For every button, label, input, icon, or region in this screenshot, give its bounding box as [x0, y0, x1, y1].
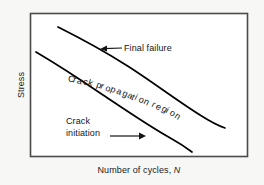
crack-initiation-line-1: Crack — [66, 116, 100, 128]
final-failure-label: Final failure — [124, 43, 172, 53]
y-axis-label: Stress — [16, 55, 26, 115]
x-axis-label: Number of cycles, N — [30, 165, 248, 175]
x-axis-label-symbol: N — [174, 165, 181, 175]
crack-initiation-line-2: initiation — [66, 128, 100, 140]
x-axis-label-text: Number of cycles, — [98, 165, 172, 175]
crack-initiation-label: Crack initiation — [66, 116, 100, 139]
fatigue-sn-diagram: Stress Number of cycles, N Final failure… — [0, 0, 264, 185]
